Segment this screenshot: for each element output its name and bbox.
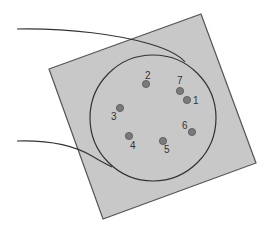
point-label-4: 4 [130,140,136,151]
point-marker-2 [142,80,149,87]
point-marker-6 [188,128,195,135]
point-label-2: 2 [145,70,151,81]
point-label-1: 1 [193,95,199,106]
point-marker-3 [116,104,123,111]
point-label-5: 5 [164,144,170,155]
point-marker-1 [183,96,190,103]
point-label-7: 7 [177,75,183,86]
point-label-3: 3 [111,111,117,122]
point-marker-7 [176,87,183,94]
point-label-6: 6 [182,120,188,131]
point-marker-4 [125,132,132,139]
specimen-diagram: 1234567 [0,0,270,235]
